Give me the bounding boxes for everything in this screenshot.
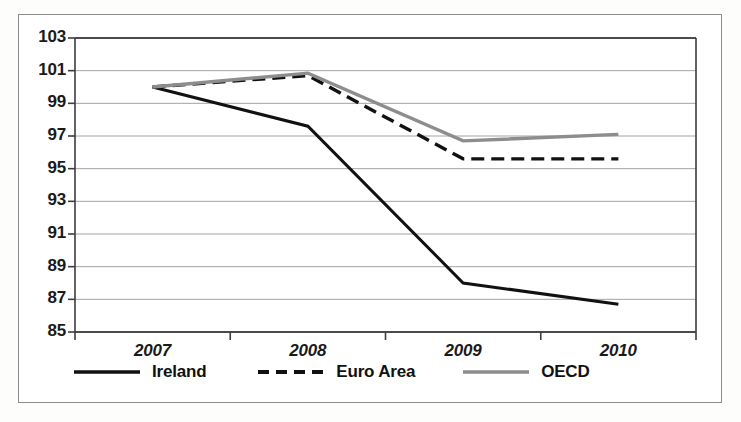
y-axis-tick-label: 87 [26, 288, 66, 308]
legend-label: Ireland [152, 362, 206, 382]
legend-item-oecd[interactable]: OECD [463, 362, 589, 382]
chart-legend: IrelandEuro AreaOECD [60, 355, 680, 389]
y-axis-tick-label: 103 [26, 27, 66, 47]
chart-container: 8587899193959799101103 2007200820092010 … [0, 0, 741, 422]
y-axis-tick-label: 101 [26, 60, 66, 80]
legend-item-euro-area[interactable]: Euro Area [258, 362, 415, 382]
y-axis-tick-label: 91 [26, 223, 66, 243]
y-axis-tick-label: 89 [26, 256, 66, 276]
y-axis-tick-label: 93 [26, 190, 66, 210]
y-axis-tick-label: 95 [26, 158, 66, 178]
legend-item-ireland[interactable]: Ireland [74, 362, 206, 382]
legend-label: OECD [541, 362, 589, 382]
solid-black-line-swatch [74, 365, 140, 379]
solid-gray-line-swatch [463, 365, 529, 379]
dashed-black-line-swatch [258, 365, 324, 379]
y-axis-tick-label: 85 [26, 321, 66, 341]
y-axis-tick-label: 99 [26, 92, 66, 112]
legend-label: Euro Area [336, 362, 415, 382]
y-axis-tick-label: 97 [26, 125, 66, 145]
